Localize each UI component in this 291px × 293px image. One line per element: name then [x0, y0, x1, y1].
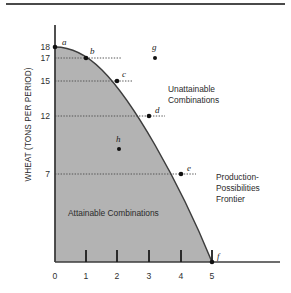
data-point-c	[115, 79, 120, 84]
data-point-f	[210, 260, 215, 265]
data-point-label-b: b	[90, 46, 95, 56]
ppf-plot: 0 1 2 3 4 5 18 17 15 12 7 a b c d e f g …	[0, 0, 291, 293]
y-tick-label-12: 12	[40, 111, 50, 121]
data-point-label-f: f	[217, 251, 221, 261]
x-tick-label-2: 2	[115, 271, 120, 281]
data-point-g	[153, 56, 157, 60]
data-point-label-g: g	[152, 42, 157, 52]
x-tick-label-0: 0	[53, 271, 58, 281]
attainable-region-fill	[55, 47, 212, 262]
data-point-e	[179, 172, 184, 177]
ppf-figure: WHEAT (TONS PER PERIOD) 0 1 2 3 4 5 18 1…	[0, 0, 291, 293]
attainable-label: Attainable Combinations	[68, 208, 159, 218]
data-point-b	[84, 56, 89, 61]
unattainable-label-line1: Unattainable	[168, 84, 215, 94]
x-tick-label-4: 4	[179, 271, 184, 281]
x-tick-label-1: 1	[84, 271, 89, 281]
x-tick-label-3: 3	[147, 271, 152, 281]
data-point-a	[53, 45, 58, 50]
data-point-label-d: d	[155, 105, 160, 115]
frontier-label-line3: Frontier	[216, 194, 245, 204]
data-point-label-e: e	[187, 163, 191, 173]
unattainable-label-line2: Combinations	[168, 95, 219, 105]
data-point-label-c: c	[122, 69, 126, 79]
data-point-label-h: h	[116, 134, 121, 144]
data-point-d	[147, 114, 152, 119]
y-tick-label-7: 7	[45, 169, 50, 179]
data-point-h	[117, 147, 121, 151]
x-tick-label-5: 5	[210, 271, 215, 281]
frontier-label-line1: Production-	[216, 172, 259, 182]
y-tick-label-18: 18	[40, 42, 50, 52]
y-tick-label-15: 15	[40, 76, 50, 86]
data-point-label-a: a	[62, 37, 67, 47]
frontier-label-line2: Possibilities	[216, 183, 260, 193]
y-tick-label-17: 17	[40, 53, 50, 63]
